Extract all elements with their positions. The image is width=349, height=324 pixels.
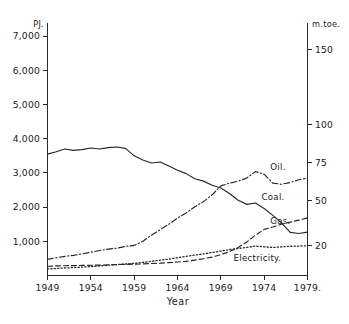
energy-consumption-chart: 1,0002,0003,0004,0005,0006,0007,00020507…	[0, 0, 349, 324]
series-label-coal: Coal.	[262, 192, 285, 202]
y-tick-label: 7,000	[13, 30, 40, 41]
series-line-coal	[48, 147, 308, 234]
x-tick-label: 1959	[122, 282, 146, 293]
x-tick-label: 1974	[252, 282, 276, 293]
y-right-tick-label: 150	[315, 44, 333, 55]
right-axis-unit-label: m.toe.	[312, 19, 340, 29]
y-tick-label: 4,000	[13, 133, 40, 144]
x-tick-label: 1954	[79, 282, 103, 293]
x-tick-label: 1949	[35, 282, 59, 293]
y-tick-label: 2,000	[13, 201, 40, 212]
x-tick-label: 1969	[209, 282, 233, 293]
y-tick-label: 5,000	[13, 99, 40, 110]
y-tick-label: 6,000	[13, 65, 40, 76]
series-lines-group	[48, 147, 308, 269]
y-right-tick-label: 75	[315, 157, 327, 168]
series-label-gas: Gas.	[270, 216, 290, 226]
y-right-tick-label: 100	[315, 119, 333, 130]
left-axis-unit-label: PJ.	[33, 19, 44, 29]
x-tick-label: 1979.	[294, 282, 321, 293]
y-right-tick-label: 20	[315, 240, 327, 251]
y-right-tick-label: 50	[315, 195, 327, 206]
ticks-group	[43, 36, 312, 280]
series-label-oil: Oil.	[270, 162, 285, 172]
x-axis-title: Year	[166, 296, 190, 307]
series-line-oil	[48, 172, 308, 260]
series-labels-group: Coal.Oil.Gas.Electricity.	[234, 162, 291, 263]
y-tick-label: 1,000	[13, 236, 40, 247]
chart-canvas: 1,0002,0003,0004,0005,0006,0007,00020507…	[0, 0, 349, 324]
series-label-electricity: Electricity.	[234, 253, 282, 263]
x-tick-label: 1964	[165, 282, 189, 293]
y-tick-label: 3,000	[13, 167, 40, 178]
